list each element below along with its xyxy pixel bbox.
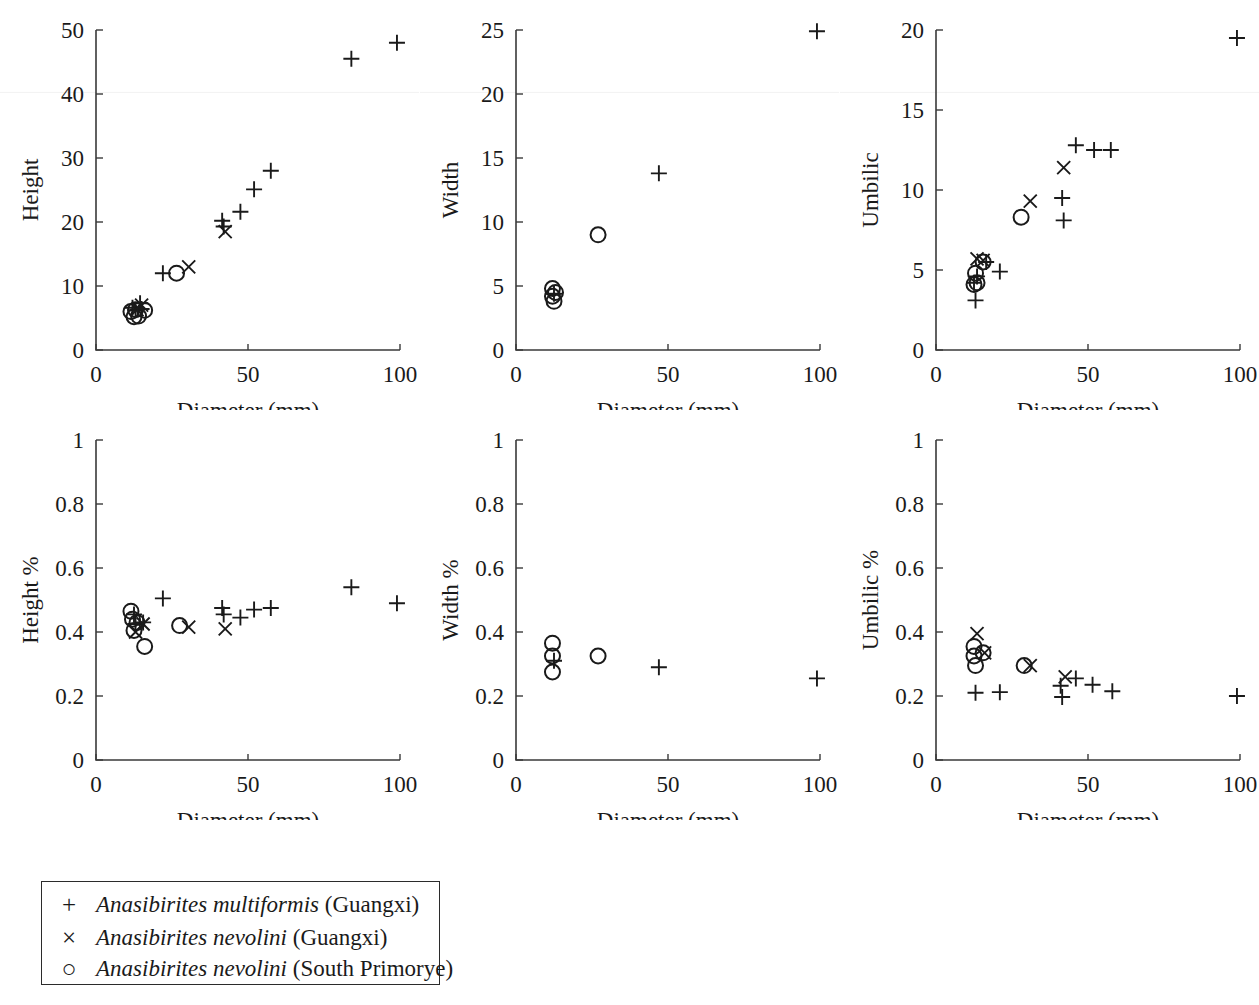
y-tick-label: 0.6 — [895, 556, 924, 581]
y-tick-label: 50 — [61, 18, 84, 43]
y-tick-label: 0.2 — [475, 684, 504, 709]
data-points — [123, 579, 405, 654]
data-point-plus — [232, 204, 248, 220]
plot-width-vs-diameter: 0510152025050100WidthDiameter (mm) — [420, 0, 839, 410]
data-points — [967, 627, 1245, 705]
cross-icon: × — [42, 925, 96, 950]
axis-lines — [936, 440, 1240, 760]
data-point-cross — [219, 622, 232, 635]
y-tick-label: 0.6 — [475, 556, 504, 581]
data-points — [545, 636, 825, 687]
y-tick-label: 0 — [913, 338, 925, 363]
data-point-plus — [155, 590, 171, 606]
y-tick-label: 0.4 — [55, 620, 84, 645]
x-tick-label: 50 — [657, 362, 680, 387]
y-tick-label: 0.4 — [895, 620, 924, 645]
y-tick-label: 1 — [73, 428, 85, 453]
y-tick-label: 10 — [481, 210, 504, 235]
y-tick-label: 5 — [493, 274, 505, 299]
legend: + Anasibirites multiformis (Guangxi) × A… — [41, 881, 440, 985]
data-point-plus — [263, 163, 279, 179]
x-tick-label: 100 — [383, 772, 418, 797]
legend-row: × Anasibirites nevolini (Guangxi) — [42, 921, 439, 954]
y-tick-label: 20 — [901, 18, 924, 43]
y-tick-label: 25 — [481, 18, 504, 43]
axis-lines — [96, 440, 400, 760]
x-tick-label: 0 — [510, 362, 522, 387]
data-point-plus — [246, 181, 262, 197]
y-tick-label: 5 — [913, 258, 925, 283]
x-tick-label: 100 — [1223, 772, 1258, 797]
y-tick-label: 20 — [61, 210, 84, 235]
data-point-plus — [968, 292, 984, 308]
x-axis-title: Diameter (mm) — [177, 398, 319, 410]
data-point-cross — [1024, 195, 1037, 208]
y-axis-title: Width % — [438, 559, 463, 640]
legend-locality: (Guangxi) — [293, 925, 388, 950]
data-point-plus — [651, 659, 667, 675]
y-tick-label: 0.8 — [55, 492, 84, 517]
y-tick-label: 15 — [901, 98, 924, 123]
x-tick-label: 50 — [657, 772, 680, 797]
y-tick-label: 20 — [481, 82, 504, 107]
legend-locality: (South Primorye) — [293, 956, 453, 981]
panel-height-percent-vs-diameter: 00.20.40.60.81050100Height %Diameter (mm… — [0, 410, 419, 820]
y-tick-label: 0.8 — [475, 492, 504, 517]
data-points — [123, 35, 405, 324]
legend-row: + Anasibirites multiformis (Guangxi) — [42, 888, 439, 921]
x-tick-label: 0 — [510, 772, 522, 797]
legend-label: Anasibirites multiformis (Guangxi) — [96, 892, 419, 918]
y-tick-label: 0 — [493, 748, 505, 773]
x-tick-label: 50 — [1077, 772, 1100, 797]
data-point-circle — [545, 665, 560, 680]
data-point-plus — [343, 579, 359, 595]
y-tick-label: 0.6 — [55, 556, 84, 581]
data-point-plus — [1068, 137, 1084, 153]
data-point-plus — [1229, 30, 1245, 46]
data-point-plus — [992, 684, 1008, 700]
y-tick-label: 10 — [901, 178, 924, 203]
x-tick-label: 50 — [1077, 362, 1100, 387]
legend-species: Anasibirites multiformis — [96, 892, 319, 917]
y-tick-label: 1 — [493, 428, 505, 453]
x-tick-label: 100 — [803, 772, 838, 797]
panel-width-vs-diameter: 0510152025050100WidthDiameter (mm) — [420, 0, 839, 410]
data-point-plus — [809, 670, 825, 686]
y-tick-label: 15 — [481, 146, 504, 171]
plot-umbilic-percent-vs-diameter: 00.20.40.60.81050100Umbilic %Diameter (m… — [840, 410, 1259, 820]
data-point-plus — [1229, 688, 1245, 704]
y-tick-label: 30 — [61, 146, 84, 171]
legend-label: Anasibirites nevolini (South Primorye) — [96, 956, 453, 982]
data-point-circle — [591, 227, 606, 242]
data-point-circle — [548, 285, 563, 300]
axis-lines — [516, 440, 820, 760]
x-axis-title: Diameter (mm) — [1017, 398, 1159, 410]
legend-species: Anasibirites nevolini — [96, 925, 287, 950]
y-axis-title: Height % — [18, 556, 43, 644]
y-tick-label: 0 — [73, 338, 85, 363]
axis-lines — [936, 30, 1240, 350]
panel-umbilic-percent-vs-diameter: 00.20.40.60.81050100Umbilic %Diameter (m… — [840, 410, 1259, 820]
x-tick-label: 0 — [930, 772, 942, 797]
x-tick-label: 100 — [1223, 362, 1258, 387]
data-point-circle — [1014, 210, 1029, 225]
y-tick-label: 0.4 — [475, 620, 504, 645]
y-tick-label: 0.8 — [895, 492, 924, 517]
x-tick-label: 50 — [237, 772, 260, 797]
data-point-cross — [1057, 161, 1070, 174]
data-point-plus — [246, 602, 262, 618]
plot-height-vs-diameter: 01020304050050100HeightDiameter (mm) — [0, 0, 419, 410]
data-point-plus — [992, 264, 1008, 280]
data-point-plus — [651, 165, 667, 181]
plot-height-percent-vs-diameter: 00.20.40.60.81050100Height %Diameter (mm… — [0, 410, 419, 820]
data-point-plus — [1103, 142, 1119, 158]
data-point-plus — [1085, 677, 1101, 693]
data-point-circle — [169, 266, 184, 281]
data-point-plus — [389, 595, 405, 611]
data-point-plus — [389, 35, 405, 51]
legend-species: Anasibirites nevolini — [96, 956, 287, 981]
y-tick-label: 1 — [913, 428, 925, 453]
data-point-plus — [1054, 190, 1070, 206]
x-tick-label: 0 — [90, 362, 102, 387]
